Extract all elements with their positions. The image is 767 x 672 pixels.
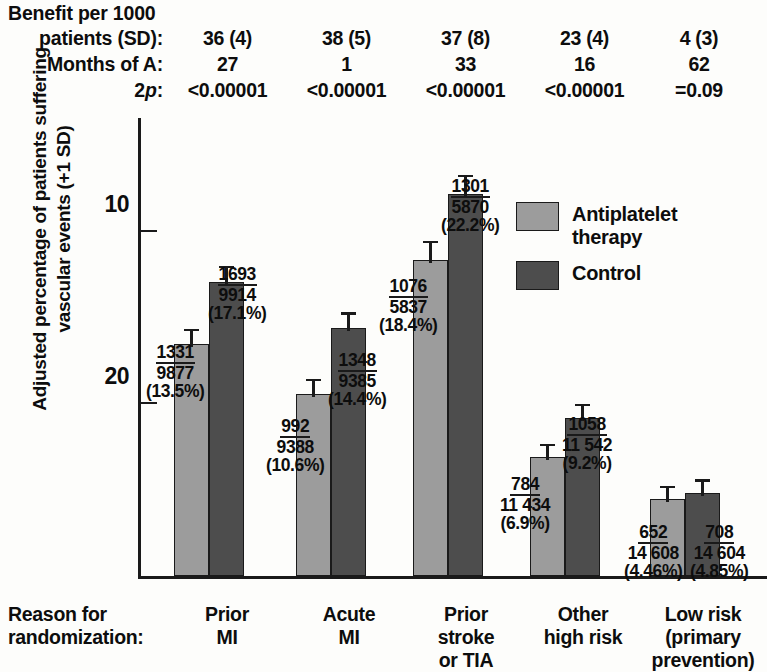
twop-prefix: 2 xyxy=(134,79,145,101)
events-count: 1076 xyxy=(389,277,428,298)
value-label: 13489385(14.4%) xyxy=(328,351,386,409)
value-label-percent: (10.6%) xyxy=(266,456,324,475)
events-count: 708 xyxy=(704,523,734,544)
value-label-percent: (13.5%) xyxy=(146,382,204,401)
header-label-benefit: patients (SD): xyxy=(0,29,168,49)
months-value-5: 62 xyxy=(644,55,754,75)
value-label-percent: (17.1%) xyxy=(208,304,266,323)
events-count: 1693 xyxy=(218,265,257,286)
value-label-percent: (9.2%) xyxy=(562,454,612,473)
y-tick-20 xyxy=(141,230,157,233)
value-label-percent: (4.85%) xyxy=(690,562,748,581)
value-label: 9929388(10.6%) xyxy=(266,417,324,475)
error-bar-cap xyxy=(341,312,356,314)
plot-area: 2010 13319877(13.5%)16939914(17.1%)99293… xyxy=(138,118,767,579)
value-label-total: 11 434 xyxy=(500,496,550,515)
events-count: 1331 xyxy=(156,343,195,364)
error-bar-stem xyxy=(701,482,703,496)
events-count: 992 xyxy=(280,417,310,438)
bar-group: 13319877(13.5%)16939914(17.1%) xyxy=(174,115,244,576)
header-table: Benefit per 1000 patients (SD): 36 (4) 3… xyxy=(0,0,767,100)
header-label-months: Months of A: xyxy=(0,55,168,75)
value-label-percent: (6.9%) xyxy=(500,514,550,533)
error-bar-cap xyxy=(423,241,438,243)
value-label-events: 652 xyxy=(624,523,682,544)
benefit-value-5: 4 (3) xyxy=(644,29,754,49)
error-bar-stem xyxy=(347,315,349,332)
value-label-total: 5837 xyxy=(379,298,437,317)
error-bar-cap xyxy=(575,404,590,406)
value-label-percent: (22.2%) xyxy=(441,216,499,235)
x-category-label: Low risk (primary prevention) xyxy=(633,603,767,672)
y-axis-title: Adjusted percentage of patients sufferin… xyxy=(28,0,76,464)
benefit-value-2: 38 (5) xyxy=(287,29,406,49)
value-label-events: 1693 xyxy=(208,265,266,286)
twop-value-3: <0.00001 xyxy=(406,81,525,101)
value-label-events: 1331 xyxy=(146,343,204,364)
bar-group: 65214 608(4.46%)70814 604(4.85%) xyxy=(650,115,720,576)
error-bar-cap xyxy=(540,444,555,446)
value-label-total: 9388 xyxy=(266,438,324,457)
value-label-percent: (14.4%) xyxy=(328,390,386,409)
benefit-value-4: 23 (4) xyxy=(525,29,644,49)
legend-swatch-control xyxy=(516,261,559,290)
x-category-label: Prior MI xyxy=(157,603,297,649)
value-label-events: 708 xyxy=(690,523,748,544)
y-tick-label-10: 20 xyxy=(104,363,129,390)
twop-value-2: <0.00001 xyxy=(287,81,406,101)
header-row-twop: 2p: <0.00001 <0.00001 <0.00001 <0.00001 … xyxy=(0,74,767,100)
bar-group: 9929388(10.6%)13489385(14.4%) xyxy=(296,115,366,576)
y-tick-label-20: 10 xyxy=(104,191,129,218)
value-label-events: 1348 xyxy=(328,351,386,372)
events-count: 652 xyxy=(638,523,668,544)
y-axis-line xyxy=(138,118,141,579)
bar-control xyxy=(209,282,244,576)
months-value-3: 33 xyxy=(406,55,525,75)
value-label-total: 14 608 xyxy=(624,544,682,563)
legend: Antiplatelet therapy Control xyxy=(516,202,677,302)
events-count: 1348 xyxy=(338,351,377,372)
value-label: 105811 542(9.2%) xyxy=(562,415,612,473)
value-label-total: 11 542 xyxy=(562,436,612,455)
value-label-total: 5870 xyxy=(441,198,499,217)
twop-italic-p: p xyxy=(145,79,157,101)
events-count: 784 xyxy=(510,475,540,496)
y-tick-10 xyxy=(141,402,157,405)
legend-item-control: Control xyxy=(516,261,677,290)
bar-control xyxy=(448,194,483,576)
error-bar-cap xyxy=(184,329,199,331)
twop-value-4: <0.00001 xyxy=(525,81,644,101)
value-label: 13015870(22.2%) xyxy=(441,177,499,235)
error-bar-stem xyxy=(666,488,668,502)
value-label: 13319877(13.5%) xyxy=(146,343,204,401)
error-bar-stem xyxy=(429,243,431,262)
header-row-months: Months of A: 27 1 33 16 62 xyxy=(0,48,767,74)
months-value-2: 1 xyxy=(287,55,406,75)
error-bar-stem xyxy=(546,446,548,460)
value-label-total: 9877 xyxy=(146,364,204,383)
months-value-4: 16 xyxy=(525,55,644,75)
value-label: 65214 608(4.46%) xyxy=(624,523,682,581)
value-label-events: 1058 xyxy=(562,415,612,436)
legend-item-antiplatelet: Antiplatelet therapy xyxy=(516,202,677,249)
legend-label-control: Control xyxy=(572,262,641,285)
value-label-total: 9385 xyxy=(328,372,386,391)
value-label-total: 14 604 xyxy=(690,544,748,563)
twop-value-5: =0.09 xyxy=(644,81,754,101)
benefit-value-1: 36 (4) xyxy=(168,29,287,49)
value-label-events: 784 xyxy=(500,475,550,496)
value-label-events: 1301 xyxy=(441,177,499,198)
events-count: 1301 xyxy=(451,177,490,198)
value-label-events: 992 xyxy=(266,417,324,438)
value-label: 70814 604(4.85%) xyxy=(690,523,748,581)
twop-value-1: <0.00001 xyxy=(168,81,287,101)
benefit-value-3: 37 (8) xyxy=(406,29,525,49)
legend-label-antiplatelet: Antiplatelet therapy xyxy=(572,203,677,249)
error-bar-cap xyxy=(660,486,675,488)
months-value-1: 27 xyxy=(168,55,287,75)
value-label-percent: (18.4%) xyxy=(379,316,437,335)
bar-group: 10765837(18.4%)13015870(22.2%) xyxy=(413,115,483,576)
value-label: 10765837(18.4%) xyxy=(379,277,437,335)
events-count: 1058 xyxy=(567,415,606,436)
